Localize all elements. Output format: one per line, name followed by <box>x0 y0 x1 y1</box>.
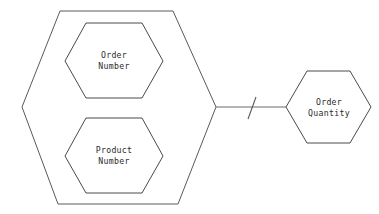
connector-tick-icon <box>248 97 256 119</box>
diagram-canvas-container: OrderNumber ProductNumber OrderQuantity <box>0 0 379 214</box>
product-number-hexagon[interactable] <box>65 118 163 193</box>
order-quantity-hexagon[interactable] <box>286 71 371 143</box>
diagram-svg <box>0 0 379 214</box>
order-number-hexagon[interactable] <box>65 23 163 98</box>
outer-group-hexagon[interactable] <box>22 11 216 204</box>
